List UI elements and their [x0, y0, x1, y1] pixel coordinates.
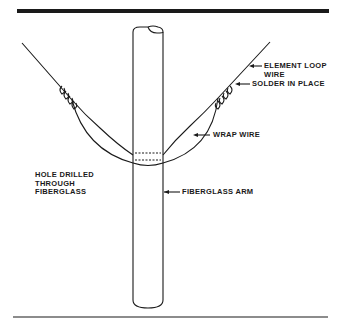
label-wrap-wire: WRAP WIRE: [213, 131, 260, 140]
wrap-wire: [72, 98, 218, 166]
label-solder-in-place: SOLDER IN PLACE: [252, 80, 325, 89]
label-fiberglass-arm: FIBERGLASS ARM: [182, 188, 253, 197]
label-element-loop-wire: ELEMENT LOOP WIRE: [264, 62, 327, 79]
label-line: WIRE: [264, 71, 327, 80]
diagram-canvas: [0, 0, 342, 319]
hole-through-arm: [135, 153, 161, 160]
element-loop-wire-left: [22, 43, 133, 155]
fiberglass-arm: [133, 26, 163, 308]
top-rule: [17, 9, 329, 13]
label-hole-drilled: HOLE DRILLED THROUGH FIBERGLASS: [35, 171, 94, 197]
label-line: FIBERGLASS: [35, 188, 94, 197]
